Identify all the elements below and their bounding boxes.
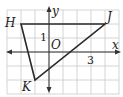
y-axis-label: y xyxy=(51,4,59,18)
x-tick-label-3: 3 xyxy=(87,54,94,67)
vertex-label-h: H xyxy=(4,16,16,30)
origin-label: O xyxy=(51,38,61,52)
coordinate-plane-diagram: H J K y x O 1 3 xyxy=(0,0,123,97)
y-tick-label-1: 1 xyxy=(40,31,47,44)
x-axis-label: x xyxy=(112,38,119,52)
y-axis-up-arrow-icon xyxy=(47,6,52,12)
vertex-label-k: K xyxy=(21,80,32,94)
y-axis-down-arrow-icon xyxy=(47,87,52,93)
